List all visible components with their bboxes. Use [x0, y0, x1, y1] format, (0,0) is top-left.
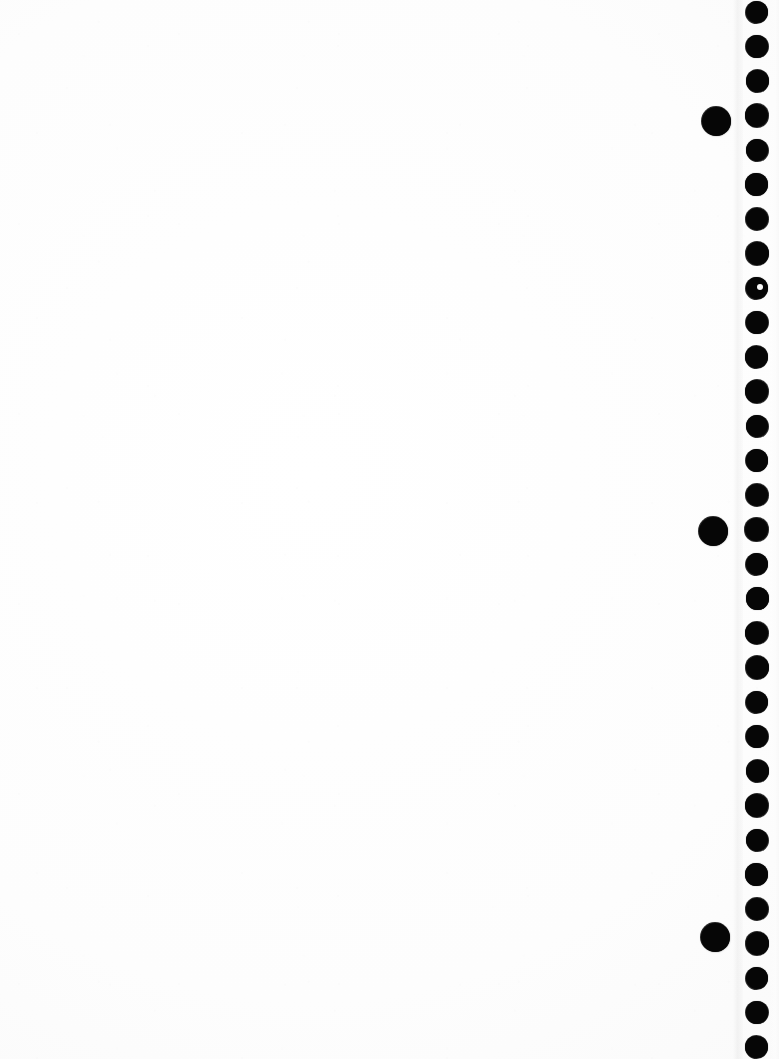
- edge-dot: [746, 415, 768, 437]
- page-right-margin: [770, 0, 779, 1059]
- edge-dot: [746, 311, 768, 333]
- edge-dot: [746, 553, 768, 575]
- edge-dot: [746, 139, 768, 161]
- edge-dot: [745, 863, 767, 885]
- edge-dot: [746, 760, 769, 783]
- edge-dot: [745, 104, 768, 127]
- edge-dot: [745, 346, 768, 369]
- edge-dot: [746, 208, 769, 231]
- edge-dot: [746, 70, 769, 93]
- edge-dot: [746, 484, 769, 507]
- edge-dot: [745, 518, 768, 541]
- scanned-page: [0, 0, 779, 1059]
- edge-dot: [745, 1036, 768, 1059]
- edge-dot: [746, 829, 768, 851]
- edge-dot: [746, 242, 769, 265]
- edge-dot: [746, 967, 768, 989]
- edge-dot: [746, 691, 768, 713]
- edge-dot: [746, 898, 769, 921]
- edge-dot: [745, 173, 767, 195]
- edge-dot: [746, 932, 769, 955]
- edge-dot: [746, 1001, 768, 1023]
- edge-dot: [745, 380, 768, 403]
- edge-dot: [746, 656, 769, 679]
- page-edge-shadow: [733, 0, 743, 1059]
- edge-dot: [746, 587, 768, 609]
- edge-dot: [745, 622, 768, 645]
- edge-dot: [746, 35, 768, 57]
- edge-dot: [746, 725, 768, 747]
- edge-dot: [745, 794, 768, 817]
- offset-dot: [699, 517, 728, 546]
- edge-dot: [746, 449, 768, 471]
- offset-dot: [702, 107, 731, 136]
- offset-dot: [701, 923, 730, 952]
- edge-dot: [746, 1, 768, 23]
- blank-content-area: [0, 0, 700, 1059]
